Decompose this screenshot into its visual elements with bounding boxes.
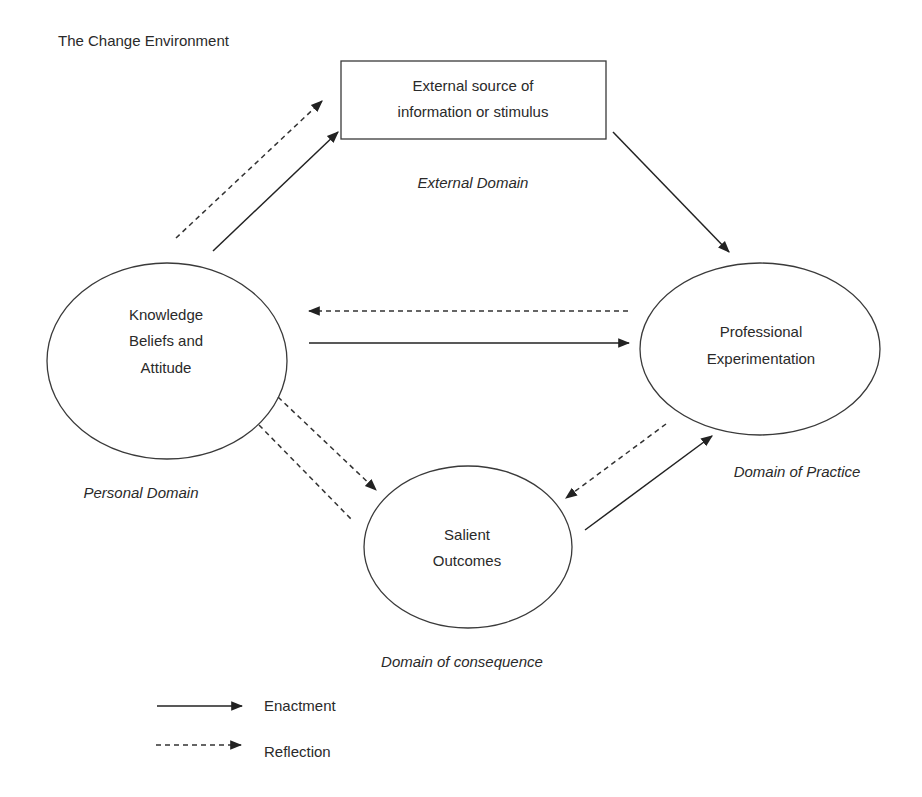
consequence-label-line1: Salient: [444, 526, 491, 543]
change-environment-diagram: The Change Environment External source o…: [0, 0, 922, 797]
personal-domain-label: Personal Domain: [83, 484, 198, 501]
personal-label-line3: Attitude: [141, 359, 192, 376]
practice-label-line1: Professional: [720, 323, 803, 340]
consequence-label-line2: Outcomes: [433, 552, 501, 569]
consequence-node: Salient Outcomes: [364, 466, 572, 628]
edge-personal-to-external-enactment: [213, 132, 338, 251]
personal-label-line1: Knowledge: [129, 306, 203, 323]
external-source-node: External source of information or stimul…: [341, 61, 606, 139]
edge-external-to-practice-enactment: [613, 132, 729, 252]
practice-domain-label: Domain of Practice: [734, 463, 861, 480]
legend-label-enactment: Enactment: [264, 697, 337, 714]
external-source-box: [341, 61, 606, 139]
legend-label-reflection: Reflection: [264, 743, 331, 760]
practice-node: Professional Experimentation: [640, 263, 880, 435]
edge-consequence-to-practice-enactment: [585, 436, 712, 530]
legend: Enactment Reflection: [156, 697, 337, 760]
consequence-domain-label: Domain of consequence: [381, 653, 543, 670]
edge-consequence-to-personal-reflection: [259, 425, 352, 520]
personal-label-line2: Beliefs and: [129, 332, 203, 349]
edge-practice-to-consequence-reflection: [566, 424, 666, 498]
practice-label-line2: Experimentation: [707, 350, 815, 367]
practice-ellipse: [640, 263, 880, 435]
edge-personal-to-consequence-reflection: [278, 397, 376, 490]
legend-item-enactment: Enactment: [157, 697, 337, 714]
personal-node: Knowledge Beliefs and Attitude: [47, 263, 287, 459]
external-source-label-line1: External source of: [413, 77, 535, 94]
diagram-title: The Change Environment: [58, 32, 230, 49]
external-source-label-line2: information or stimulus: [398, 103, 549, 120]
external-domain-label: External Domain: [418, 174, 529, 191]
legend-item-reflection: Reflection: [156, 743, 331, 760]
consequence-ellipse: [364, 466, 572, 628]
